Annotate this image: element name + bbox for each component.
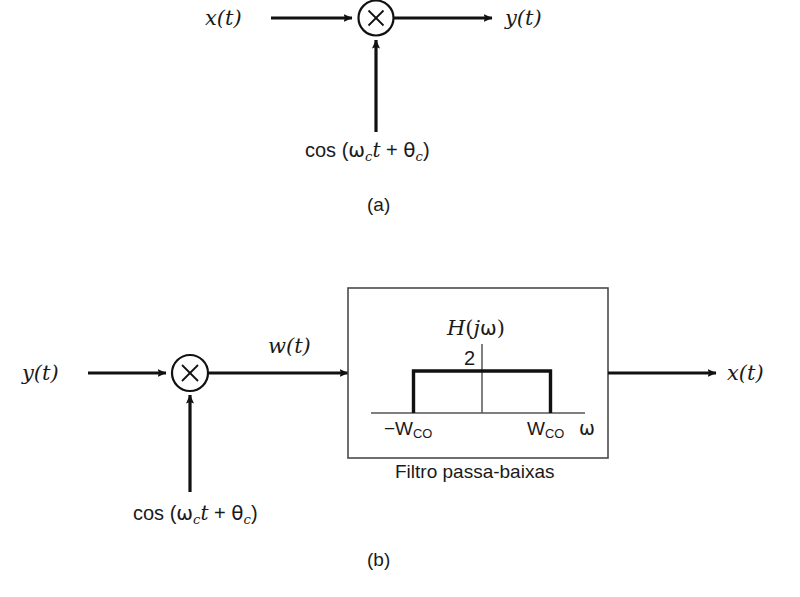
- filter-cutoff-negative-main: W: [395, 418, 413, 439]
- panel-a-carrier-theta: θ: [403, 138, 415, 162]
- panel-a-input-label: x(t): [205, 8, 242, 29]
- panel-a-caption: (a): [367, 195, 390, 214]
- filter-cutoff-positive-subscript: CO: [545, 426, 564, 441]
- filter-cutoff-negative-tick-label: −WCO: [384, 419, 432, 441]
- panel-b-carrier-theta-subscript: c: [244, 512, 251, 527]
- panel-b-output-label: x(t): [727, 363, 764, 384]
- panel-b-carrier-theta: θ: [231, 501, 243, 525]
- filter-cutoff-negative-sign: −: [384, 418, 395, 439]
- filter-response-label-open-paren: (: [465, 316, 473, 340]
- panel-b-carrier-omega: ω: [176, 501, 193, 525]
- panel-a-graphics: [271, 1, 492, 133]
- panel-b-carrier-expression: cos (ωct + θc): [133, 503, 258, 526]
- filter-gain-value: 2: [464, 348, 475, 368]
- filter-response-label-h: H: [447, 316, 465, 340]
- filter-cutoff-positive-tick-label: WCO: [527, 419, 564, 441]
- panel-a-carrier-time-var: t: [372, 138, 380, 162]
- panel-a-output-label: y(t): [505, 8, 542, 29]
- panel-b-input-label: y(t): [22, 363, 59, 384]
- panel-b-carrier-time-var: t: [200, 501, 208, 525]
- filter-cutoff-negative-subscript: CO: [413, 426, 432, 441]
- filter-frequency-axis-label: ω: [579, 419, 595, 438]
- panel-b-carrier-operator: +: [214, 502, 226, 524]
- panel-a-carrier-omega: ω: [348, 138, 365, 162]
- panel-b-intermediate-label: w(t): [268, 336, 311, 357]
- filter-caption: Filtro passa-baixas: [395, 462, 554, 481]
- panel-a-carrier-theta-subscript: c: [416, 149, 423, 164]
- panel-a-carrier-operator: +: [386, 139, 398, 161]
- figure-line-art: [0, 0, 800, 597]
- panel-a-carrier-prefix: cos (: [305, 139, 348, 161]
- panel-a-carrier-expression: cos (ωct + θc): [305, 140, 430, 163]
- panel-b-caption: (b): [367, 550, 390, 569]
- filter-response-label: H(jω): [447, 318, 505, 339]
- filter-cutoff-positive-main: W: [527, 418, 545, 439]
- figure-root: x(t) y(t) cos (ωct + θc) (a) y(t) w(t) x…: [0, 0, 800, 597]
- filter-response-label-close-paren: ): [497, 316, 505, 340]
- panel-b-carrier-prefix: cos (: [133, 502, 176, 524]
- panel-b-carrier-suffix: ): [251, 502, 258, 524]
- panel-a-carrier-suffix: ): [423, 139, 430, 161]
- filter-response-label-omega: ω: [480, 316, 497, 340]
